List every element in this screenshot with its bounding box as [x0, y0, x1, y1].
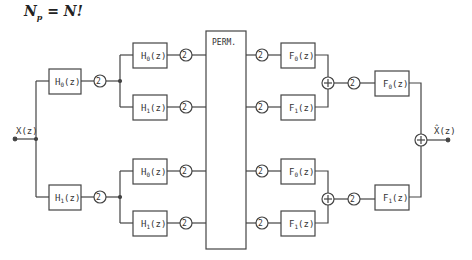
output-node	[446, 138, 450, 142]
svg-text:2: 2	[350, 195, 355, 204]
svg-text:H1(z): H1(z)	[141, 219, 166, 230]
synth2-f1-bottom: F1(z)	[281, 211, 315, 236]
decimator-1-0: 2	[94, 75, 106, 87]
svg-text:2: 2	[258, 167, 263, 176]
stage1-h1-block: H1(z)	[49, 185, 81, 210]
svg-text:F1(z): F1(z)	[289, 219, 314, 230]
svg-text:2: 2	[258, 103, 263, 112]
output-label: X̂(z)	[434, 124, 456, 136]
summer-bottom	[322, 193, 334, 205]
svg-text:H1(z): H1(z)	[55, 193, 80, 204]
svg-text:2: 2	[182, 167, 187, 176]
svg-text:2: 2	[96, 193, 101, 202]
synth2-f1-top: F1(z)	[281, 95, 315, 120]
svg-text:2: 2	[96, 77, 101, 86]
stage2-h1-bottom: H1(z)	[133, 211, 167, 236]
svg-text:PERM.: PERM.	[212, 38, 236, 47]
svg-text:2: 2	[182, 103, 187, 112]
summer-output	[415, 134, 427, 146]
svg-text:2: 2	[350, 79, 355, 88]
svg-text:2: 2	[182, 219, 187, 228]
stage1-h0-block: H0(z)	[49, 69, 81, 94]
stage2-h1-top: H1(z)	[133, 95, 167, 120]
stage2-h0-bottom: H0(z)	[133, 159, 167, 184]
svg-text:H1(z): H1(z)	[141, 103, 166, 114]
svg-text:H0(z): H0(z)	[141, 167, 166, 178]
svg-text:H0(z): H0(z)	[141, 51, 166, 62]
filter-bank-diagram: X(z) H0(z) 2 H1(z) 2 H0(z) H1(z) H0(z)	[0, 0, 472, 260]
svg-text:2: 2	[182, 51, 187, 60]
svg-text:2: 2	[258, 51, 263, 60]
svg-text:F1(z): F1(z)	[289, 103, 314, 114]
svg-text:F0(z): F0(z)	[383, 79, 408, 90]
input-label: X(z)	[16, 126, 38, 136]
synth2-f0-top: F0(z)	[281, 43, 315, 68]
permutation-block: PERM.	[206, 31, 246, 249]
svg-text:H0(z): H0(z)	[55, 77, 80, 88]
summer-top	[322, 77, 334, 89]
stage2-h0-top: H0(z)	[133, 43, 167, 68]
svg-text:F1(z): F1(z)	[383, 193, 408, 204]
svg-text:F0(z): F0(z)	[289, 167, 314, 178]
svg-text:F0(z): F0(z)	[289, 51, 314, 62]
svg-text:2: 2	[258, 219, 263, 228]
synth1-f0: F0(z)	[375, 71, 409, 96]
decimator-1-1: 2	[94, 191, 106, 203]
synth2-f0-bottom: F0(z)	[281, 159, 315, 184]
synth1-f1: F1(z)	[375, 185, 409, 210]
